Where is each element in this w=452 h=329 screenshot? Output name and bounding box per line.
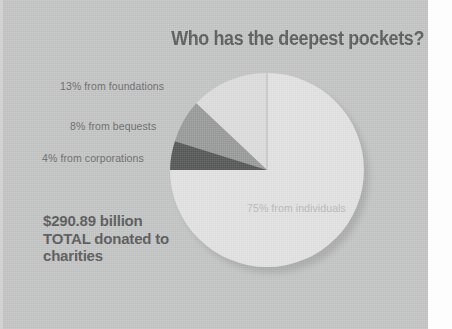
left-edge-strip <box>0 0 3 329</box>
total-description-line2: charities <box>43 247 169 265</box>
page-title: Who has the deepest pockets? <box>34 27 424 50</box>
pie-label-foundations: 13% from foundations <box>60 80 164 92</box>
pie-chart <box>170 73 364 267</box>
right-page-margin <box>428 0 452 329</box>
total-donated-annotation: $290.89 billion TOTAL donated to chariti… <box>43 212 169 265</box>
total-description-line1: TOTAL donated to <box>43 230 169 248</box>
infographic-canvas: Who has the deepest pockets? 13% from fo… <box>0 0 452 329</box>
total-amount: $290.89 billion <box>43 212 169 230</box>
pie-label-individuals: 75% from individuals <box>247 202 346 214</box>
pie-slices <box>170 73 364 267</box>
pie-label-corporations: 4% from corporations <box>42 152 144 164</box>
pie-label-bequests: 8% from bequests <box>70 120 156 132</box>
